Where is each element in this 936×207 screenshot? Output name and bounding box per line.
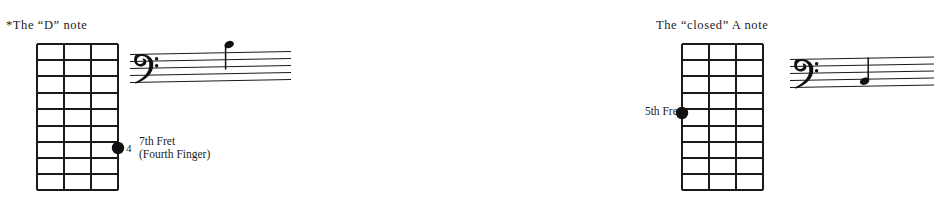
fretboard-grid: [34, 41, 124, 193]
fret-label-7th-fret: 7th Fret (Fourth Finger): [139, 135, 210, 160]
fret-label-line-2: (Fourth Finger): [139, 148, 210, 161]
caption-closed-a-note: The “closed” A note: [656, 18, 768, 33]
fret-label-line-1: 7th Fret: [139, 135, 175, 147]
finger-number-4: 4: [126, 142, 132, 154]
staff-d-note: [128, 40, 293, 95]
panel-d-note: *The “D” note: [0, 0, 325, 207]
fretboard-diagram-d-note: [34, 41, 124, 193]
staff-notation: [128, 40, 293, 95]
fretboard-diagram-closed-a-note: [679, 41, 769, 193]
finger-dot-5th-fret: [675, 106, 689, 124]
staff-closed-a-note: [788, 50, 936, 100]
finger-dot-7th-fret: [111, 141, 125, 159]
fret-label-line-1: 5th: [645, 105, 660, 117]
panel-closed-a-note: The “closed” A note: [324, 0, 649, 207]
staff-notation: [788, 50, 936, 100]
fretboard-grid: [679, 41, 769, 193]
note-d: [223, 40, 235, 70]
caption-d-note: *The “D” note: [6, 18, 87, 33]
